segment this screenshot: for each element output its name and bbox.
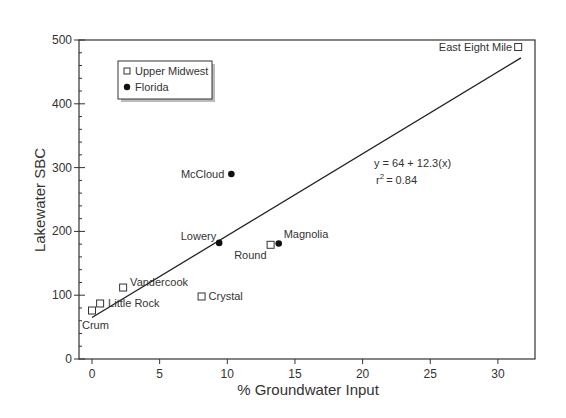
x-tick-label: 25: [424, 367, 438, 381]
point-label: Crum: [82, 319, 109, 331]
legend-label-florida: Florida: [135, 81, 170, 93]
y-axis-label: Lakewater SBC: [31, 148, 48, 252]
point-label: Round: [234, 249, 266, 261]
y-tick-label: 200: [52, 224, 72, 238]
y-tick-label: 400: [52, 97, 72, 111]
x-tick-label: 0: [89, 367, 96, 381]
x-tick-label: 10: [221, 367, 235, 381]
legend-label-upper-midwest: Upper Midwest: [135, 65, 208, 77]
y-axis-ticks: 0100200300400500: [52, 33, 85, 366]
filled-circle-marker-icon: [275, 240, 282, 247]
x-tick-label: 20: [356, 367, 370, 381]
filled-circle-marker-icon: [228, 171, 235, 178]
point-label: Lowery: [181, 230, 217, 242]
filled-circle-marker-icon: [216, 240, 223, 247]
point-label: Little Rock: [108, 297, 160, 309]
r-squared-label: r2= 0.84: [376, 172, 417, 186]
y-tick-label: 300: [52, 161, 72, 175]
open-square-marker-icon: [89, 307, 96, 314]
legend: Upper Midwest Florida: [118, 61, 215, 102]
point-label: McCloud: [181, 168, 224, 180]
open-square-marker-icon: [97, 300, 104, 307]
open-square-marker-icon: [198, 293, 205, 300]
y-tick-label: 100: [52, 288, 72, 302]
x-tick-label: 5: [156, 367, 163, 381]
open-square-marker-icon: [120, 284, 127, 291]
scatter-chart: 0100200300400500 051015202530 % Groundwa…: [0, 0, 566, 418]
point-label: Magnolia: [284, 228, 330, 240]
legend-filled-circle-icon: [124, 84, 130, 90]
legend-open-square-icon: [124, 68, 130, 74]
x-axis-label: % Groundwater Input: [237, 381, 380, 398]
point-label: Vandercook: [130, 276, 188, 288]
open-square-marker-icon: [267, 241, 274, 248]
y-tick-label: 0: [65, 352, 72, 366]
regression-equation: y = 64 + 12.3(x): [374, 157, 451, 169]
point-label: Crystal: [209, 290, 243, 302]
x-axis-ticks: 051015202530: [89, 359, 505, 381]
x-tick-label: 30: [491, 367, 505, 381]
open-square-marker-icon: [515, 44, 522, 51]
y-tick-label: 500: [52, 33, 72, 47]
x-tick-label: 15: [288, 367, 302, 381]
point-label: East Eight Mile: [439, 41, 512, 53]
